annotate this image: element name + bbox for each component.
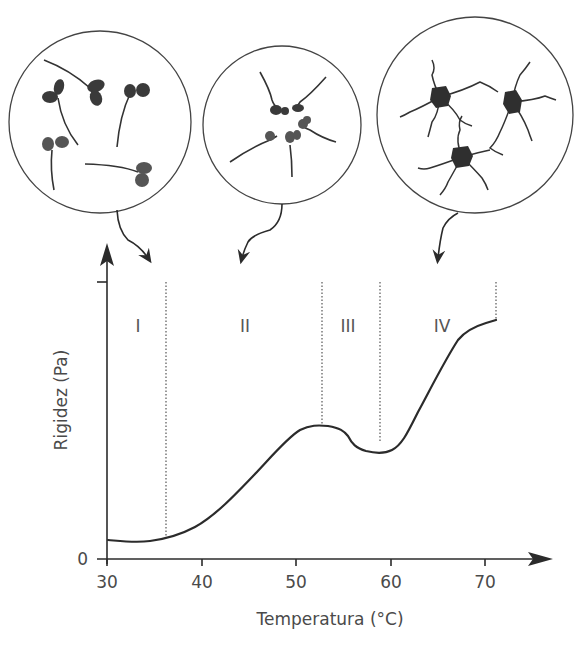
inset-circle-phase-1 bbox=[9, 31, 191, 213]
x-tick-label-40: 40 bbox=[191, 572, 213, 592]
protein-blob-icon bbox=[265, 104, 311, 143]
region-label-IV: IV bbox=[434, 316, 451, 336]
y-axis-title: Rigidez (Pa) bbox=[51, 350, 71, 451]
region-label-III: III bbox=[340, 316, 355, 336]
x-tick-label-70: 70 bbox=[474, 572, 496, 592]
protein-cluster-icon bbox=[430, 86, 522, 168]
arrow-circle-2 bbox=[242, 204, 282, 258]
arrow-circle-3 bbox=[438, 213, 458, 258]
x-axis-title: Temperatura (°C) bbox=[255, 609, 403, 629]
x-tick-label-30: 30 bbox=[96, 572, 118, 592]
protein-icon bbox=[44, 60, 138, 190]
rheology-figure: 30 40 50 60 70 0 Temperatura (°C) Rigide… bbox=[0, 0, 585, 646]
region-label-II: II bbox=[240, 316, 250, 336]
inset-circle-phase-2 bbox=[203, 46, 361, 204]
y-tick-label-0: 0 bbox=[77, 549, 88, 569]
x-tick-label-60: 60 bbox=[380, 572, 402, 592]
pointer-arrows bbox=[117, 204, 458, 258]
x-tick-label-50: 50 bbox=[285, 572, 307, 592]
protein-network-icon bbox=[400, 60, 556, 195]
protein-icon bbox=[230, 72, 336, 177]
region-label-I: I bbox=[135, 316, 140, 336]
inset-circle-phase-4 bbox=[377, 17, 573, 213]
arrow-circle-1 bbox=[117, 210, 148, 258]
